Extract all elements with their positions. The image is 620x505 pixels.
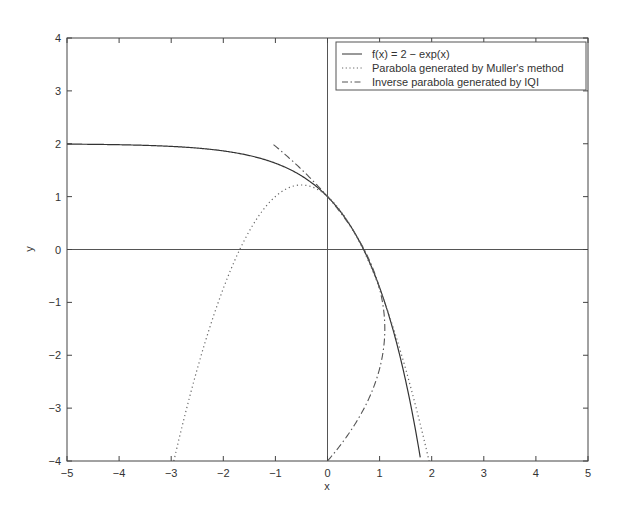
legend: f(x) = 2 − exp(x) Parabola generated by … — [336, 42, 586, 90]
x-tick-label: −2 — [217, 467, 230, 479]
x-tick-label: 5 — [585, 467, 591, 479]
x-tick-label: −5 — [61, 467, 74, 479]
x-tick-label: 4 — [533, 467, 539, 479]
y-tick-label: −2 — [48, 349, 61, 361]
y-tick-label: 3 — [55, 85, 61, 97]
y-tick-label: −1 — [48, 296, 61, 308]
y-axis-label: y — [23, 246, 35, 252]
axis-ticks: −5−4−3−2−1012345−4−3−2−101234 — [48, 32, 591, 479]
series-iqi-inverse-parabola — [272, 144, 384, 461]
x-tick-label: 2 — [429, 467, 435, 479]
x-tick-label: 1 — [377, 467, 383, 479]
y-tick-label: 2 — [55, 138, 61, 150]
chart-figure: −5−4−3−2−1012345−4−3−2−101234 x y f(x) =… — [0, 0, 620, 505]
y-tick-label: −3 — [48, 402, 61, 414]
x-tick-label: 3 — [481, 467, 487, 479]
y-tick-label: 0 — [55, 244, 61, 256]
legend-item-iqi: Inverse parabola generated by IQI — [372, 76, 539, 88]
x-axis-label: x — [324, 480, 330, 492]
x-tick-label: −1 — [269, 467, 282, 479]
legend-item-muller: Parabola generated by Muller's method — [372, 62, 564, 74]
x-tick-label: 0 — [324, 467, 330, 479]
legend-item-f: f(x) = 2 − exp(x) — [372, 48, 450, 60]
y-tick-label: 4 — [55, 32, 61, 44]
x-tick-label: −3 — [165, 467, 178, 479]
plot-area — [67, 38, 588, 461]
series-f-exp — [67, 144, 420, 457]
y-tick-label: −4 — [48, 455, 61, 467]
curves — [67, 144, 429, 461]
y-tick-label: 1 — [55, 191, 61, 203]
x-tick-label: −4 — [113, 467, 126, 479]
